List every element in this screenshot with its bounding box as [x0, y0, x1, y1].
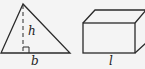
length-label: l: [109, 54, 113, 68]
base-label: b: [31, 54, 39, 68]
diagram-svg: h b l: [0, 0, 145, 69]
geometry-diagram: h b l: [0, 0, 145, 69]
height-label: h: [28, 24, 36, 38]
box-figure: l: [83, 10, 145, 68]
triangle-figure: h b: [1, 4, 70, 68]
box-front-face: [83, 23, 135, 53]
right-angle-marker: [23, 47, 29, 53]
box-top-face: [83, 10, 145, 23]
